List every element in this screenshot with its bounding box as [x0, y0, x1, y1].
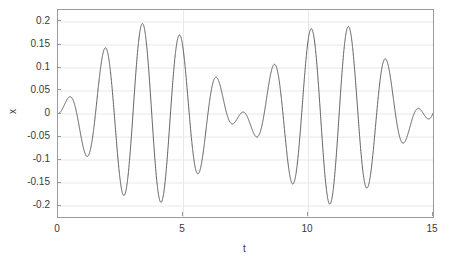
y-tick-mark — [57, 89, 61, 90]
y-tick-mark — [57, 205, 61, 206]
x-tick-mark — [57, 212, 58, 216]
y-tick-mark — [57, 159, 61, 160]
y-tick-mark — [57, 44, 61, 45]
y-tick-mark — [57, 182, 61, 183]
y-tick-mark — [57, 20, 61, 21]
x-tick-mark — [182, 212, 183, 216]
x-tick-label: 10 — [301, 224, 312, 234]
y-tick-mark — [57, 136, 61, 137]
x-axis-label: t — [57, 243, 432, 254]
x-tick-mark — [432, 212, 433, 216]
x-axis-tick-labels: 051015 — [0, 0, 454, 271]
y-tick-mark — [57, 113, 61, 114]
figure-container: 0.20.150.10.050-0.05-0.1-0.15-0.2 051015… — [0, 0, 454, 271]
x-tick-mark — [307, 212, 308, 216]
x-tick-label: 15 — [426, 224, 437, 234]
x-tick-label: 0 — [54, 224, 60, 234]
x-tick-label: 5 — [179, 224, 185, 234]
y-axis-label: x — [7, 109, 18, 114]
y-tick-mark — [57, 67, 61, 68]
